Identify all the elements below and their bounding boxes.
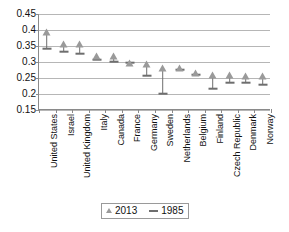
x-axis-category-label: Norway xyxy=(266,112,275,143)
x-axis-category-text: Germany xyxy=(150,114,159,151)
y-axis-tick-mark xyxy=(36,94,39,95)
data-point-1985 xyxy=(159,93,168,95)
data-point-2013 xyxy=(109,52,117,59)
gridline xyxy=(39,14,270,15)
y-axis-tick-label: 0.25 xyxy=(17,73,36,83)
x-axis-category-label: United Kingdom xyxy=(83,112,92,176)
data-point-2013 xyxy=(142,60,150,67)
y-axis-tick-mark xyxy=(36,62,39,63)
y-axis-tick-label: 0.15 xyxy=(17,105,36,115)
legend-label-1985: 1985 xyxy=(161,205,183,216)
data-point-2013 xyxy=(209,71,217,78)
x-axis-category-text: Canada xyxy=(117,114,126,146)
gridline xyxy=(39,46,270,47)
x-axis-category-text: Czech Republic xyxy=(233,114,242,177)
x-axis-category-text: Finland xyxy=(216,114,225,144)
data-point-2013 xyxy=(59,41,67,48)
data-point-2013 xyxy=(93,52,101,59)
data-point-2013 xyxy=(242,73,250,80)
x-axis-category-text: Italy xyxy=(100,114,109,131)
data-point-1985 xyxy=(225,81,234,83)
data-point-1985 xyxy=(209,88,218,90)
data-point-2013 xyxy=(126,59,134,66)
y-axis-tick-label: 0.35 xyxy=(17,41,36,51)
y-axis-tick-label: 0.2 xyxy=(22,89,36,99)
x-axis-category-label: Italy xyxy=(100,112,109,129)
x-axis-category-text: France xyxy=(133,114,142,142)
data-point-2013 xyxy=(159,65,167,72)
x-axis-category-label: Netherlands xyxy=(183,112,192,161)
x-axis-category-label: Canada xyxy=(117,112,126,144)
y-axis-tick-label: 0.45 xyxy=(17,9,36,19)
data-point-1985 xyxy=(59,51,68,53)
range-connector xyxy=(162,68,163,94)
x-axis-category-text: Belgium xyxy=(199,114,208,147)
data-point-2013 xyxy=(76,41,84,48)
x-axis-category-label: Germany xyxy=(150,112,159,149)
gridline xyxy=(39,78,270,79)
gridline xyxy=(39,30,270,31)
y-axis-tick-mark xyxy=(36,14,39,15)
data-point-1985 xyxy=(76,53,85,55)
x-axis-category-text: Netherlands xyxy=(183,114,192,163)
legend-label-2013: 2013 xyxy=(115,205,137,216)
data-point-1985 xyxy=(93,59,102,61)
gridline xyxy=(39,62,270,63)
data-point-2013 xyxy=(225,71,233,78)
x-axis-category-label: United States xyxy=(50,112,59,166)
y-axis-tick-label: 0.4 xyxy=(22,25,36,35)
data-point-2013 xyxy=(175,65,183,72)
data-point-2013 xyxy=(258,73,266,80)
data-point-1985 xyxy=(258,84,267,86)
dash-icon xyxy=(149,210,158,212)
x-axis-category-text: Norway xyxy=(266,114,275,145)
data-point-1985 xyxy=(142,75,151,77)
x-axis-category-label: Israel xyxy=(67,112,76,134)
x-axis-category-label: Denmark xyxy=(249,112,258,149)
data-point-2013 xyxy=(43,28,51,35)
x-axis-labels: United StatesIsraelUnited KingdomItalyCa… xyxy=(38,112,270,196)
plot-area xyxy=(38,14,270,110)
data-point-1985 xyxy=(43,48,52,50)
y-axis-tick-mark xyxy=(36,30,39,31)
x-axis-category-text: United States xyxy=(50,114,59,168)
x-axis-category-label: Czech Republic xyxy=(233,112,242,175)
data-point-1985 xyxy=(242,81,251,83)
x-axis-category-text: Denmark xyxy=(249,114,258,151)
gridline xyxy=(39,94,270,95)
x-axis-category-label: Belgium xyxy=(199,112,208,145)
x-axis-category-label: France xyxy=(133,112,142,140)
x-axis-category-text: Israel xyxy=(67,114,76,136)
data-point-1985 xyxy=(109,61,118,63)
x-axis-category-label: Sweden xyxy=(166,112,175,145)
y-axis-labels: 0.450.40.350.30.250.20.15 xyxy=(0,0,36,232)
triangle-icon xyxy=(106,208,112,213)
data-point-2013 xyxy=(192,70,200,77)
y-axis-tick-mark xyxy=(36,46,39,47)
chart-container: 0.450.40.350.30.250.20.15 United StatesI… xyxy=(0,0,289,232)
x-axis-category-label: Finland xyxy=(216,112,225,142)
x-axis-category-text: United Kingdom xyxy=(83,114,92,178)
y-axis-tick-label: 0.3 xyxy=(22,57,36,67)
chart-legend: 2013 1985 xyxy=(101,203,189,219)
x-axis-category-text: Sweden xyxy=(166,114,175,147)
y-axis-tick-mark xyxy=(36,78,39,79)
